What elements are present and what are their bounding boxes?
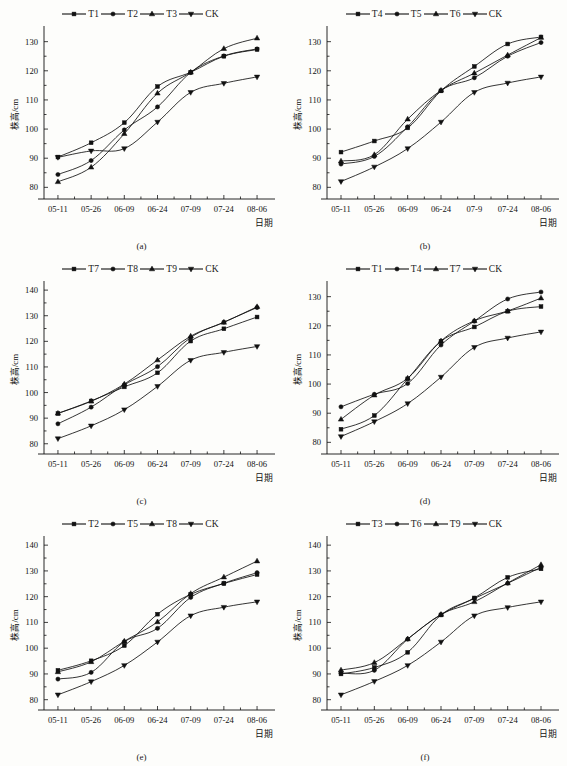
marker-triangle-down [472,346,477,351]
legend-item-t6[interactable]: T6 [385,519,424,529]
marker-triangle-down [155,640,160,645]
legend-item-t9[interactable]: T9 [424,519,463,529]
marker-triangle-down [438,120,443,125]
legend-item-t5[interactable]: T5 [385,9,424,19]
y-tick-label: 90 [29,153,38,163]
legend-label: T4 [370,9,385,19]
series-line-t3 [341,569,541,674]
x-tick-label: 05-26 [364,715,385,725]
panel-caption: (c) [0,496,283,506]
series-line-t2 [58,49,257,175]
series-line-t4 [341,292,541,407]
marker-square [372,414,376,418]
x-tick-label: 07-24 [214,204,235,214]
legend-item-t5[interactable]: T5 [101,519,140,529]
legend-item-t1[interactable]: T1 [62,9,101,19]
legend-item-ck[interactable]: CK [463,9,505,19]
chart-legend: T1 T2 T3 CK [0,9,283,19]
legend-item-t8[interactable]: T8 [140,519,179,529]
x-tick-label: 06-24 [431,715,452,725]
y-tick-label: 110 [308,350,321,360]
panel-caption: (a) [0,241,283,251]
legend-item-ck[interactable]: CK [463,264,505,274]
marker-triangle-down [338,693,343,698]
legend-item-t7[interactable]: T7 [424,264,463,274]
marker-square [472,325,476,329]
x-tick-label: 05-11 [331,715,351,725]
marker-circle [155,626,159,630]
x-tick-label: 06-24 [431,204,452,214]
legend-label: T3 [370,519,385,529]
marker-circle [56,422,60,426]
x-tick-label: 08-06 [531,459,552,469]
legend-label: T7 [448,264,463,274]
legend-item-t3[interactable]: T3 [346,519,385,529]
legend-item-t4[interactable]: T4 [385,264,424,274]
y-tick-label: 120 [25,66,38,76]
x-tick-label: 06-24 [147,204,168,214]
panel-caption: (f) [283,752,567,762]
legend-item-t2[interactable]: T2 [62,519,101,529]
y-tick-label: 110 [25,95,38,105]
marker-square [339,150,343,154]
legend-label: T4 [409,264,424,274]
legend-item-t3[interactable]: T3 [140,9,179,19]
legend-item-t9[interactable]: T9 [140,264,179,274]
legend-item-ck[interactable]: CK [463,519,505,529]
chart-plot-c: 809010011012013014005-1105-2606-0906-240… [0,255,283,510]
chart-legend: T1 T4 T7 CK [283,264,567,274]
legend-item-t1[interactable]: T1 [346,264,385,274]
marker-circle [255,47,259,51]
legend-label: T2 [86,519,101,529]
y-axis-title: 株高/cm [292,99,303,130]
y-tick-label: 80 [312,182,321,192]
marker-square [539,305,543,309]
legend-item-t7[interactable]: T7 [62,264,101,274]
marker-triangle-down [122,408,127,413]
legend-item-ck[interactable]: CK [179,9,221,19]
marker-triangle-down [438,375,443,380]
marker-circle [111,522,115,526]
legend-label: CK [203,9,221,19]
x-tick-label: 07-24 [498,715,519,725]
legend-item-t8[interactable]: T8 [101,264,140,274]
series-line-t8 [58,561,257,672]
legend-item-ck[interactable]: CK [179,264,221,274]
marker-circle [406,125,410,129]
legend-marker-square [62,9,86,19]
legend-item-t6[interactable]: T6 [424,9,463,19]
marker-triangle-up [538,562,543,567]
marker-triangle-up [155,357,160,362]
series-line-t5 [341,43,541,165]
legend-swatch [140,264,164,274]
marker-circle [89,158,93,162]
legend-item-ck[interactable]: CK [179,519,221,529]
marker-square [122,121,126,125]
legend-swatch [463,9,487,19]
y-tick-label: 100 [308,379,321,389]
y-tick-label: 110 [25,617,38,627]
legend-swatch [179,519,203,529]
marker-square [255,315,259,319]
y-tick-label: 120 [308,66,321,76]
series-line-t9 [341,565,541,670]
legend-item-t2[interactable]: T2 [101,9,140,19]
legend-label: CK [203,264,221,274]
legend-marker-triangle-down [179,264,203,274]
chart-legend: T3 T6 T9 CK [283,519,567,529]
marker-circle [56,677,60,681]
legend-marker-circle [101,519,125,529]
legend-marker-square [62,519,86,529]
legend-swatch [463,519,487,529]
x-tick-label: 05-11 [48,459,68,469]
y-tick-label: 140 [25,540,38,550]
x-axis-title: 日期 [539,473,557,483]
marker-circle [189,595,193,599]
legend-marker-triangle-up [424,519,448,529]
x-tick-label: 07-24 [498,459,519,469]
marker-circle [406,381,410,385]
x-tick-label: 06-09 [114,459,134,469]
legend-item-t4[interactable]: T4 [346,9,385,19]
legend-marker-square [346,519,370,529]
legend-swatch [179,264,203,274]
